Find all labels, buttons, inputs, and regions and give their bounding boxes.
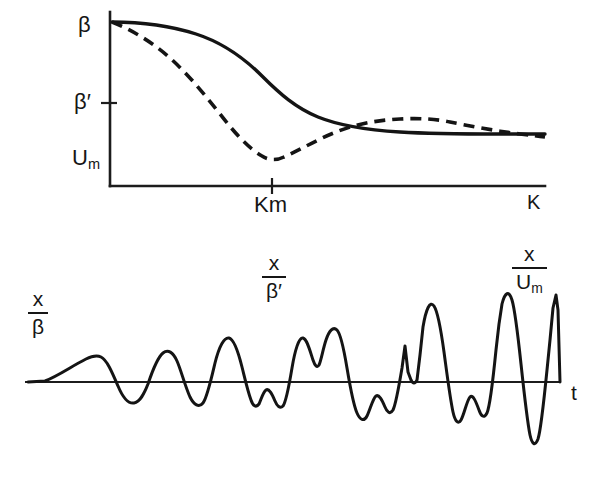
arrival-u-m-bar: [512, 267, 547, 269]
u-m-base: U: [72, 145, 88, 170]
x-tick-label-km: Km: [254, 194, 287, 216]
figure-container: β β′ Um Km K x β x β′ x Um t: [0, 0, 603, 499]
group-velocity-curve: [112, 22, 545, 160]
y-label-u-m: Um: [72, 147, 100, 172]
arrival-label-u-m: x Um: [512, 243, 547, 296]
y-label-beta: β: [78, 14, 91, 36]
arrival-u-m-base: U: [516, 270, 531, 293]
x-axis-label-k: K: [527, 192, 540, 212]
waveform-trace: [28, 294, 560, 444]
arrival-beta-denominator: β: [28, 315, 48, 338]
arrival-beta-prime-numerator: x: [262, 252, 286, 275]
arrival-u-m-numerator: x: [512, 243, 547, 266]
t-axis-label: t: [571, 382, 577, 403]
u-m-subscript: m: [88, 156, 100, 172]
y-label-beta-prime: β′: [74, 91, 91, 113]
arrival-beta-prime-bar: [262, 276, 286, 278]
phase-velocity-curve: [112, 22, 545, 134]
arrival-beta-numerator: x: [28, 288, 48, 311]
arrival-u-m-denominator: Um: [512, 270, 547, 295]
arrival-label-beta: x β: [28, 288, 48, 338]
arrival-u-m-subscript: m: [531, 280, 543, 296]
arrival-label-beta-prime: x β′: [262, 252, 286, 302]
arrival-beta-bar: [28, 312, 48, 314]
arrival-beta-prime-denominator: β′: [262, 279, 286, 302]
